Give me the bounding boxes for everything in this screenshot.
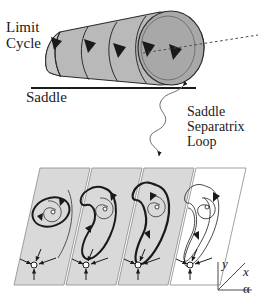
axis-label-alpha: α [243,281,250,297]
panel-3-saddle [135,262,141,268]
panel-2-focus [103,207,107,211]
squiggle-leader [150,86,183,156]
panel-2-saddle [83,262,89,268]
limit-cycle-cone [46,11,258,85]
panel-4-focus [205,205,209,209]
axis-label-x: x [243,264,249,280]
panel-3-focus [155,205,159,209]
axis-label-y: y [222,256,228,272]
panel-4-saddle [187,262,193,268]
panel-1-focus [51,210,55,214]
limit-cycle-label: Limit Cycle [6,20,41,52]
saddle-label: Saddle [26,90,67,106]
squiggle-leader-path [150,86,183,156]
saddle-separatrix-loop-label: Saddle Separatrix Loop [187,105,245,149]
panel-1-saddle [31,262,37,268]
